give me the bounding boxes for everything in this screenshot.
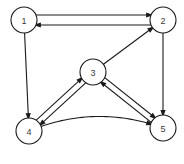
edge-2-to-5 [160, 33, 165, 118]
directed-graph-figure: 12345 [0, 0, 184, 164]
edge-3-to-2 [103, 26, 154, 64]
graph-canvas: 12345 [0, 0, 184, 164]
node-label: 2 [160, 16, 165, 26]
node-1[interactable]: 1 [11, 7, 37, 33]
edge-path [25, 33, 29, 118]
node-label: 5 [160, 124, 165, 134]
edge-1-to-4 [25, 33, 31, 121]
node-3[interactable]: 3 [80, 59, 106, 85]
node-4[interactable]: 4 [16, 118, 42, 144]
edge-2-to-1 [33, 22, 151, 27]
node-5[interactable]: 5 [150, 115, 176, 141]
edge-path [103, 28, 152, 65]
edge-1-to-2 [36, 12, 154, 17]
edge-path [105, 78, 155, 118]
edge-4-to-5 [41, 116, 154, 126]
node-label: 4 [26, 127, 31, 137]
edge-path [36, 78, 81, 120]
node-label: 3 [90, 68, 95, 78]
edge-3-to-4 [38, 83, 85, 127]
edge-path [40, 83, 85, 125]
edge-path [41, 116, 150, 126]
edge-3-to-5 [105, 78, 157, 120]
node-2[interactable]: 2 [150, 7, 176, 33]
edge-4-to-3 [36, 77, 83, 121]
node-label: 1 [21, 16, 26, 26]
